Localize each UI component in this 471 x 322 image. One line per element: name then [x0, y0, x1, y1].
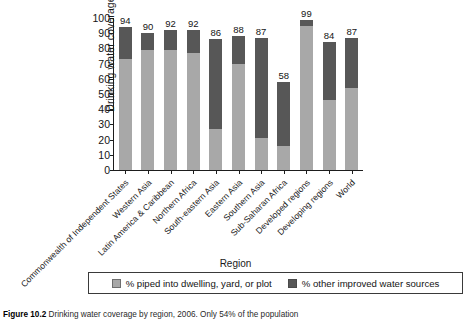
- bar[interactable]: [300, 20, 313, 170]
- bar[interactable]: [119, 27, 132, 170]
- bar-segment-piped: [187, 53, 200, 170]
- x-category-label: Southern Asia: [221, 177, 266, 222]
- bar-value-label: 90: [143, 21, 154, 32]
- bar[interactable]: [323, 42, 336, 170]
- x-category-label: Northern Africa: [151, 177, 199, 225]
- figure-container: Drinking water coverage 1009080706050403…: [0, 0, 471, 322]
- bar-segment-other-improved: [232, 36, 245, 63]
- bar-segment-piped: [323, 100, 336, 170]
- y-tick-label: 20: [82, 135, 110, 146]
- bar[interactable]: [141, 33, 154, 170]
- bar-segment-other-improved: [187, 30, 200, 53]
- bar-segment-other-improved: [119, 27, 132, 59]
- bar-segment-other-improved: [277, 82, 290, 146]
- y-tick-label: 40: [82, 104, 110, 115]
- bar-value-label: 84: [324, 30, 335, 41]
- bar-segment-piped: [164, 50, 177, 170]
- x-tick: [148, 170, 149, 174]
- x-tick: [352, 170, 353, 174]
- x-tick: [171, 170, 172, 174]
- y-tick: [110, 170, 114, 171]
- bar-value-label: 92: [188, 18, 199, 29]
- x-category-label: Developed regions: [254, 177, 312, 235]
- dark-gray-swatch-icon: [288, 279, 297, 288]
- bar-segment-piped: [119, 59, 132, 170]
- bar-value-label: 87: [256, 26, 267, 37]
- bar[interactable]: [187, 30, 200, 170]
- plot-area: Drinking water coverage 1009080706050403…: [113, 18, 363, 170]
- bar-value-label: 86: [211, 27, 222, 38]
- bar-segment-piped: [255, 138, 268, 170]
- y-tick-label: 50: [82, 89, 110, 100]
- legend-item-piped: % piped into dwelling, yard, or plot: [112, 278, 272, 289]
- bar-segment-other-improved: [209, 39, 222, 129]
- figure-caption-text: Drinking water coverage by region, 2006.…: [49, 310, 299, 319]
- x-tick: [284, 170, 285, 174]
- bar-value-label: 94: [120, 15, 131, 26]
- x-tick: [125, 170, 126, 174]
- bar-segment-piped: [141, 50, 154, 170]
- x-tick: [216, 170, 217, 174]
- y-tick-label: 100: [82, 13, 110, 24]
- x-tick: [261, 170, 262, 174]
- bar-segment-other-improved: [345, 38, 358, 88]
- bar-segment-piped: [300, 26, 313, 170]
- x-axis-title: Region: [0, 258, 471, 269]
- bar-value-label: 87: [346, 26, 357, 37]
- bar-segment-other-improved: [141, 33, 154, 50]
- bar[interactable]: [255, 38, 268, 170]
- x-category-label: Western Asia: [110, 177, 153, 220]
- bar[interactable]: [164, 30, 177, 170]
- bar-segment-piped: [345, 88, 358, 170]
- bar[interactable]: [277, 82, 290, 170]
- legend-label-other: % other improved water sources: [302, 278, 440, 289]
- y-tick-label: 60: [82, 74, 110, 85]
- bar-value-label: 58: [278, 70, 289, 81]
- figure-number: Figure 10.2: [3, 310, 46, 319]
- legend: % piped into dwelling, yard, or plot % o…: [88, 272, 463, 294]
- bar-segment-other-improved: [255, 38, 268, 138]
- bar-segment-piped: [209, 129, 222, 170]
- x-category-label: World: [334, 177, 357, 200]
- x-tick: [193, 170, 194, 174]
- x-category-label: Developing regions: [275, 177, 335, 237]
- bar-segment-piped: [277, 146, 290, 170]
- x-category-label: Latin America & Caribbean: [96, 177, 176, 257]
- bar-value-label: 88: [233, 24, 244, 35]
- legend-label-piped: % piped into dwelling, yard, or plot: [126, 278, 272, 289]
- y-tick-label: 80: [82, 43, 110, 54]
- x-tick: [239, 170, 240, 174]
- y-tick-label: 10: [82, 150, 110, 161]
- y-tick-label: 90: [82, 28, 110, 39]
- bar[interactable]: [209, 39, 222, 170]
- x-category-label: Eastern Asia: [202, 177, 244, 219]
- bar-segment-other-improved: [323, 42, 336, 100]
- bar-segment-piped: [232, 64, 245, 170]
- x-tick: [329, 170, 330, 174]
- figure-caption: Figure 10.2 Drinking water coverage by r…: [3, 310, 468, 319]
- light-gray-swatch-icon: [112, 279, 121, 288]
- bar[interactable]: [345, 38, 358, 170]
- x-category-label: Sub-Saharan Africa: [229, 177, 289, 237]
- bar-group: 9490929286888758998487: [114, 18, 363, 170]
- bar-value-label: 99: [301, 8, 312, 19]
- x-category-label: South-eastern Asia: [162, 177, 221, 236]
- bar-value-label: 92: [165, 18, 176, 29]
- bar-segment-other-improved: [164, 30, 177, 50]
- y-tick-label: 0: [82, 165, 110, 176]
- legend-item-other: % other improved water sources: [288, 278, 440, 289]
- y-tick-label: 70: [82, 59, 110, 70]
- x-tick: [306, 170, 307, 174]
- y-tick-label: 30: [82, 119, 110, 130]
- bar[interactable]: [232, 36, 245, 170]
